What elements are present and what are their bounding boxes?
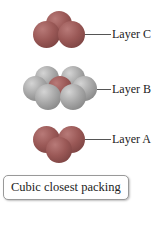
diagram-caption: Cubic closest packing: [3, 175, 129, 200]
layer-a-label: Layer A: [112, 132, 151, 147]
layer-c-sphere: [33, 21, 60, 48]
layer-b-sphere: [35, 84, 61, 110]
layer-a-leader-line: [85, 139, 111, 140]
layer-c-sphere: [58, 21, 85, 48]
layer-b-leader-line: [97, 89, 111, 90]
layer-b-label: Layer B: [112, 82, 151, 97]
layer-b-sphere: [60, 84, 86, 110]
layer-a-sphere: [46, 137, 72, 163]
layer-c-label: Layer C: [112, 27, 151, 42]
layer-c-leader-line: [85, 34, 111, 35]
